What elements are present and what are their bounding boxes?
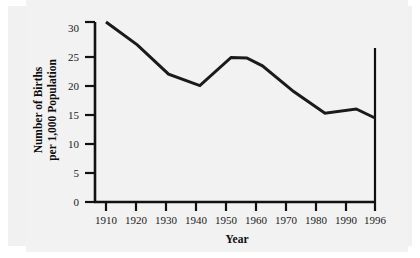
chart-svg: Number of Births per 1,000 Population 0 …	[0, 0, 420, 258]
y-tick-label-25: 25	[68, 51, 80, 63]
figure-page: Number of Births per 1,000 Population 0 …	[0, 0, 420, 258]
data-line-birth-rate	[106, 22, 375, 118]
y-tick-label-10: 10	[68, 138, 80, 150]
y-tick-label-15: 15	[68, 109, 80, 121]
x-tick-label-1950: 1950	[215, 214, 238, 226]
y-tick-labels: 0 5 10 15 20 25 30	[68, 22, 80, 208]
x-axis-title: Year	[226, 233, 249, 245]
x-tick-label-1930: 1930	[155, 214, 178, 226]
x-tick-marks	[106, 202, 375, 211]
x-tick-label-1996: 1996	[364, 214, 387, 226]
y-axis-title-line2: per 1,000 Population	[46, 59, 59, 161]
x-tick-label-1980: 1980	[305, 214, 328, 226]
x-tick-label-1920: 1920	[125, 214, 148, 226]
y-tick-label-20: 20	[68, 80, 80, 92]
x-tick-label-1910: 1910	[95, 214, 118, 226]
x-tick-labels: 1910 1920 1930 1940 1950 1960 1970 1980 …	[95, 214, 387, 226]
y-tick-label-30: 30	[68, 22, 80, 34]
x-tick-label-1970: 1970	[275, 214, 298, 226]
y-tick-marks	[85, 22, 95, 202]
y-tick-label-5: 5	[74, 167, 80, 179]
line-chart: Number of Births per 1,000 Population 0 …	[0, 0, 420, 258]
x-tick-label-1940: 1940	[185, 214, 208, 226]
y-axis-title: Number of Births per 1,000 Population	[32, 59, 59, 161]
x-tick-label-1960: 1960	[245, 214, 268, 226]
x-tick-label-1990: 1990	[335, 214, 358, 226]
y-tick-label-0: 0	[74, 196, 80, 208]
y-axis-title-line1: Number of Births	[32, 66, 44, 153]
